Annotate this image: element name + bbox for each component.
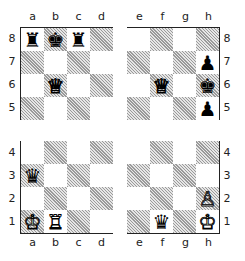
square-b7 [44, 51, 67, 74]
square-h1: ♔ [196, 210, 219, 233]
square-f7 [150, 51, 173, 74]
board-quadrant-top-left: ♜♚♜♕ [20, 27, 113, 120]
file-label-c: c [67, 236, 90, 249]
square-b2 [44, 187, 67, 210]
file-label-e: e [128, 236, 151, 249]
file-label-b: b [44, 10, 67, 23]
file-label-g: g [174, 236, 197, 249]
square-g7 [173, 51, 196, 74]
black-rook-icon: ♜ [24, 30, 42, 50]
square-d2 [90, 187, 113, 210]
file-label-a: a [21, 236, 44, 249]
square-g8 [173, 28, 196, 51]
square-d4 [90, 141, 113, 164]
square-h6: ♚ [196, 74, 219, 97]
black-king-icon: ♚ [47, 30, 65, 50]
file-label-c: c [67, 10, 90, 23]
square-a8: ♜ [21, 28, 44, 51]
square-d5 [90, 97, 113, 120]
square-h8 [196, 28, 219, 51]
white-queen-icon: ♕ [153, 76, 171, 96]
square-a3: ♛ [21, 164, 44, 187]
square-h3 [196, 164, 219, 187]
square-c3 [67, 164, 90, 187]
square-h7: ♟ [196, 51, 219, 74]
file-label-h: h [197, 10, 220, 23]
black-queen-icon: ♛ [153, 212, 171, 232]
square-e3 [127, 164, 150, 187]
rank-label-8: 8 [222, 32, 232, 45]
square-g2 [173, 187, 196, 210]
square-a1: ♔ [21, 210, 44, 233]
square-h4 [196, 141, 219, 164]
square-g4 [173, 141, 196, 164]
square-d7 [90, 51, 113, 74]
square-c6 [67, 74, 90, 97]
file-label-e: e [128, 10, 151, 23]
square-a6 [21, 74, 44, 97]
file-label-h: h [197, 236, 220, 249]
square-b8: ♚ [44, 28, 67, 51]
white-pawn-icon: ♙ [199, 189, 217, 209]
square-f5 [150, 97, 173, 120]
square-f6: ♕ [150, 74, 173, 97]
square-c7 [67, 51, 90, 74]
square-e8 [127, 28, 150, 51]
rank-label-8: 8 [7, 32, 17, 45]
black-rook-icon: ♜ [70, 30, 88, 50]
rank-label-5: 5 [7, 101, 17, 114]
board-quadrant-bottom-right: ♙♛♔ [127, 141, 220, 234]
black-pawn-icon: ♟ [199, 99, 217, 119]
rank-label-5: 5 [222, 101, 232, 114]
rank-label-7: 7 [222, 55, 232, 68]
rank-label-7: 7 [7, 55, 17, 68]
square-h5: ♟ [196, 97, 219, 120]
square-a4 [21, 141, 44, 164]
rank-label-6: 6 [222, 78, 232, 91]
square-c5 [67, 97, 90, 120]
rank-label-1: 1 [222, 215, 232, 228]
square-b4 [44, 141, 67, 164]
square-f1: ♛ [150, 210, 173, 233]
file-label-g: g [174, 10, 197, 23]
square-b5 [44, 97, 67, 120]
rank-label-4: 4 [222, 146, 232, 159]
square-b6: ♕ [44, 74, 67, 97]
rank-label-3: 3 [7, 169, 17, 182]
square-e4 [127, 141, 150, 164]
square-h2: ♙ [196, 187, 219, 210]
black-queen-icon: ♛ [24, 166, 42, 186]
square-a5 [21, 97, 44, 120]
square-b3 [44, 164, 67, 187]
file-label-d: d [90, 10, 113, 23]
square-c2 [67, 187, 90, 210]
file-label-b: b [44, 236, 67, 249]
square-a2 [21, 187, 44, 210]
square-d6 [90, 74, 113, 97]
black-pawn-icon: ♟ [199, 53, 217, 73]
file-label-d: d [90, 236, 113, 249]
white-king-icon: ♔ [24, 212, 42, 232]
white-king-icon: ♔ [199, 212, 217, 232]
rank-label-3: 3 [222, 169, 232, 182]
square-f8 [150, 28, 173, 51]
square-g1 [173, 210, 196, 233]
square-d1 [90, 210, 113, 233]
square-d8 [90, 28, 113, 51]
file-label-f: f [151, 236, 174, 249]
board-quadrant-top-right: ♟♕♚♟ [127, 27, 220, 120]
square-e5 [127, 97, 150, 120]
rank-label-2: 2 [222, 192, 232, 205]
square-e7 [127, 51, 150, 74]
square-b1: ♖ [44, 210, 67, 233]
square-g3 [173, 164, 196, 187]
black-king-icon: ♚ [199, 76, 217, 96]
square-f2 [150, 187, 173, 210]
square-c8: ♜ [67, 28, 90, 51]
rank-label-1: 1 [7, 215, 17, 228]
board-quadrant-bottom-left: ♛♔♖ [20, 141, 113, 234]
square-g5 [173, 97, 196, 120]
rank-label-4: 4 [7, 146, 17, 159]
rank-label-6: 6 [7, 78, 17, 91]
square-e2 [127, 187, 150, 210]
